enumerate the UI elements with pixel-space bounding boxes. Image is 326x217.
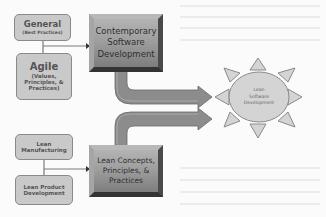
sun-line2: Software: [249, 94, 269, 99]
sun-line1: Lean: [254, 87, 265, 92]
sun-line3: Development: [244, 100, 275, 105]
lean-software-development-sun: Lean Software Development: [0, 0, 326, 217]
lean-software-diagram: General (Best Practices) Agile (Values, …: [0, 0, 326, 217]
